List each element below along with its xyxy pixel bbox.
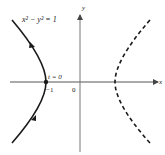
param-label: t = 0 [48, 73, 62, 81]
direction-arrow-icon [29, 42, 35, 48]
equation-label: x² − y² = 1 [21, 15, 57, 24]
hyperbola-diagram: x² − y² = 1 y x t = 0 −1 0 [0, 0, 165, 155]
x-axis-label: x [158, 78, 163, 86]
y-axis-label: y [81, 4, 86, 12]
origin-label: 0 [72, 86, 76, 94]
vertex-label: −1 [46, 86, 54, 94]
